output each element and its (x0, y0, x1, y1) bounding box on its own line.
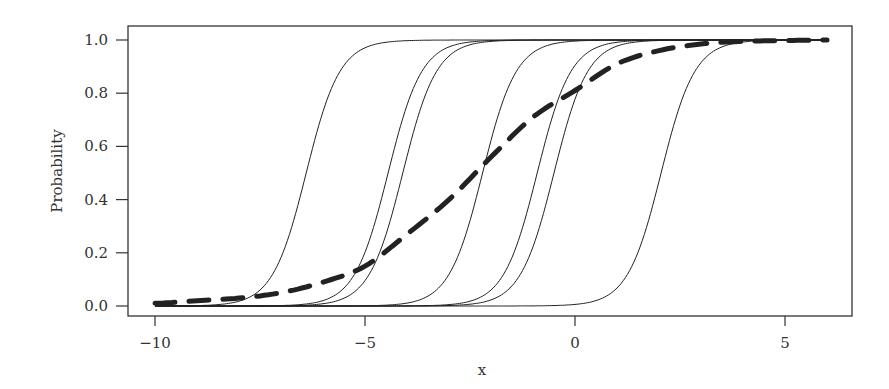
x-tick-label: −5 (354, 334, 376, 352)
x-tick-label: 5 (780, 334, 790, 352)
curve-2 (155, 40, 827, 306)
curve-7 (155, 40, 827, 306)
y-tick-label: 1.0 (84, 31, 108, 49)
y-tick-label: 0.0 (84, 297, 108, 315)
average-curve (155, 40, 827, 303)
y-tick-label: 0.2 (84, 244, 108, 262)
x-tick-label: 0 (570, 334, 580, 352)
y-axis: 0.00.20.40.60.81.0 (84, 31, 128, 315)
curve-6 (155, 40, 827, 306)
series-layer (155, 40, 827, 306)
x-axis-label: x (478, 361, 487, 379)
curve-4 (155, 40, 827, 306)
curve-1 (155, 40, 827, 306)
y-tick-label: 0.8 (84, 84, 108, 102)
y-axis-label: Probability (48, 129, 66, 213)
curve-3 (155, 40, 827, 306)
y-tick-label: 0.4 (84, 191, 108, 209)
curve-5 (155, 40, 827, 306)
probability-chart: −10−505 0.00.20.40.60.81.0 x Probability (0, 0, 889, 389)
plot-frame (128, 26, 852, 316)
x-axis: −10−505 (139, 316, 790, 352)
x-tick-label: −10 (139, 334, 171, 352)
y-tick-label: 0.6 (84, 137, 108, 155)
